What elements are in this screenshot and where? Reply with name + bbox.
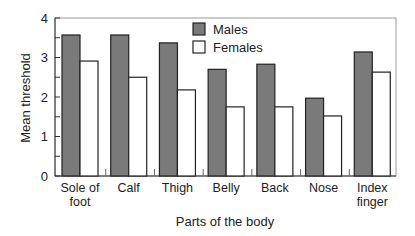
bar-males — [111, 35, 129, 176]
x-tick-label: Sole of — [61, 181, 100, 195]
x-axis-label: Parts of the body — [176, 214, 275, 229]
plot-area: 01234Sole offootCalfThighBellyBackNoseIn… — [41, 11, 396, 210]
bar-males — [62, 35, 80, 176]
y-tick-label: 4 — [41, 11, 48, 26]
bar-females — [324, 116, 342, 176]
bar-females — [226, 107, 244, 176]
y-tick-label: 2 — [41, 90, 48, 105]
x-tick-label: Nose — [309, 181, 338, 195]
x-tick-label: Belly — [213, 181, 241, 195]
bar-males — [159, 43, 177, 176]
bar-females — [275, 107, 293, 176]
bar-chart: 01234Sole offootCalfThighBellyBackNoseIn… — [0, 0, 415, 236]
y-axis-label: Mean threshold — [18, 53, 33, 143]
bar-males — [257, 64, 275, 176]
x-tick-label: foot — [70, 195, 91, 209]
bar-females — [129, 77, 147, 176]
bar-females — [177, 90, 195, 176]
x-tick-label: finger — [357, 195, 388, 209]
legend-swatch-males — [193, 23, 205, 35]
bar-males — [354, 52, 372, 176]
y-tick-label: 0 — [41, 169, 48, 184]
bar-females — [372, 72, 390, 176]
bar-males — [306, 98, 324, 176]
legend-label-females: Females — [213, 40, 263, 55]
legend-swatch-females — [193, 41, 205, 53]
x-tick-label: Index — [357, 181, 388, 195]
bar-males — [208, 69, 226, 176]
legend-label-males: Males — [213, 22, 248, 37]
x-tick-label: Back — [261, 181, 290, 195]
bar-females — [80, 61, 98, 176]
x-tick-label: Thigh — [162, 181, 193, 195]
y-tick-label: 3 — [41, 50, 48, 65]
y-tick-label: 1 — [41, 129, 48, 144]
x-tick-label: Calf — [118, 181, 141, 195]
